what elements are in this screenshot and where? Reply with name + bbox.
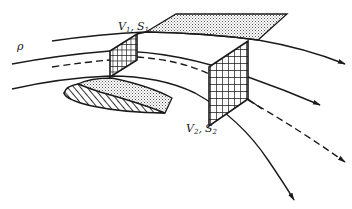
inlet-label: V1,S1 xyxy=(118,20,149,34)
upper-streamline xyxy=(52,32,345,64)
svg-text:V1,S1: V1,S1 xyxy=(118,20,149,34)
outlet-surface-S2 xyxy=(209,41,262,126)
density-label: ρ xyxy=(16,40,24,53)
center-dashed-streamline xyxy=(52,57,345,162)
streamtube-diagram: ρ V1,S1 V2,S2 xyxy=(0,0,352,209)
airfoil xyxy=(64,78,172,113)
inlet-surface-S1 xyxy=(110,32,146,77)
